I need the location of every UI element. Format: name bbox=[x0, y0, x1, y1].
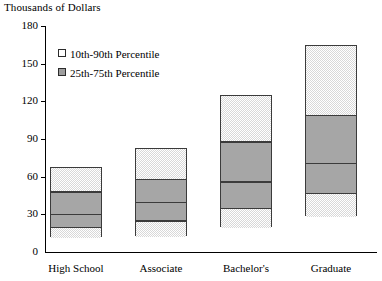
segment-50-75 bbox=[306, 115, 356, 163]
y-tick-mark bbox=[41, 139, 46, 140]
median-line bbox=[306, 163, 356, 164]
segment-50-75 bbox=[51, 191, 101, 214]
legend-swatch-25-75-icon bbox=[58, 68, 66, 76]
x-axis-line bbox=[45, 252, 377, 253]
y-tick-label: 60 bbox=[0, 171, 38, 182]
y-tick-mark bbox=[41, 101, 46, 102]
chart-legend: 10th-90th Percentile 25th-75th Percentil… bbox=[58, 44, 160, 82]
quartile-divider bbox=[51, 227, 101, 228]
quartile-divider bbox=[306, 115, 356, 116]
legend-item-10-90: 10th-90th Percentile bbox=[58, 44, 160, 63]
y-tick-label: 180 bbox=[0, 20, 38, 31]
quartile-divider bbox=[136, 220, 186, 221]
segment-75-90 bbox=[306, 46, 356, 115]
median-line bbox=[221, 181, 271, 182]
segment-75-90 bbox=[221, 96, 271, 141]
segment-10-25 bbox=[221, 208, 271, 228]
segment-50-75 bbox=[136, 179, 186, 202]
legend-label-25-75: 25th-75th Percentile bbox=[70, 67, 160, 79]
segment-10-25 bbox=[306, 193, 356, 217]
y-tick-mark bbox=[41, 177, 46, 178]
quartile-divider bbox=[51, 191, 101, 192]
y-tick-mark bbox=[41, 64, 46, 65]
segment-75-90 bbox=[136, 149, 186, 179]
quartile-divider bbox=[306, 193, 356, 194]
y-tick-mark bbox=[41, 26, 46, 27]
y-tick-label: 120 bbox=[0, 95, 38, 106]
quartile-divider bbox=[221, 141, 271, 142]
percentile-bar bbox=[50, 167, 102, 237]
segment-25-50 bbox=[136, 202, 186, 221]
percentile-bar-chart: Thousands of Dollars 0306090120150180 Hi… bbox=[0, 0, 382, 281]
segment-10-25 bbox=[136, 220, 186, 236]
quartile-divider bbox=[221, 208, 271, 209]
y-tick-label: 30 bbox=[0, 208, 38, 219]
y-tick-label: 0 bbox=[0, 246, 38, 257]
legend-label-10-90: 10th-90th Percentile bbox=[70, 48, 160, 60]
legend-swatch-10-90-icon bbox=[58, 49, 66, 57]
plot-area: 0306090120150180 High SchoolAssociateBac… bbox=[0, 0, 382, 281]
y-tick-mark bbox=[41, 214, 46, 215]
y-tick-label: 90 bbox=[0, 133, 38, 144]
quartile-divider bbox=[136, 179, 186, 180]
percentile-bar bbox=[135, 148, 187, 236]
percentile-bar bbox=[305, 45, 357, 216]
legend-item-25-75: 25th-75th Percentile bbox=[58, 63, 160, 82]
median-line bbox=[51, 214, 101, 215]
segment-25-50 bbox=[221, 181, 271, 207]
percentile-bar bbox=[220, 95, 272, 227]
segment-75-90 bbox=[51, 168, 101, 192]
segment-50-75 bbox=[221, 141, 271, 181]
y-tick-label: 150 bbox=[0, 58, 38, 69]
category-label: Graduate bbox=[271, 262, 382, 274]
segment-25-50 bbox=[51, 214, 101, 227]
median-line bbox=[136, 202, 186, 203]
segment-25-50 bbox=[306, 163, 356, 193]
segment-10-25 bbox=[51, 227, 101, 238]
